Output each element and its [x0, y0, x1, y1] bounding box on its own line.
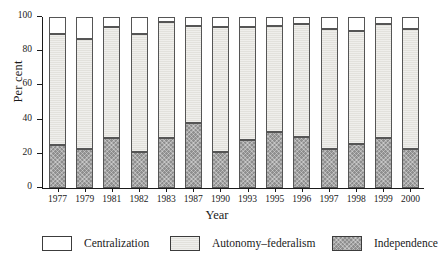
bar-1987[interactable]: [185, 17, 202, 188]
bar-segment-autonomy-federalism-1981[interactable]: [103, 27, 120, 138]
bar-segment-autonomy-federalism-1993[interactable]: [239, 27, 256, 140]
y-tick-label-80: 80: [23, 43, 33, 56]
bar-1990[interactable]: [212, 17, 229, 188]
x-tick-1999: [383, 188, 384, 192]
bar-segment-centralization-1983[interactable]: [158, 17, 175, 22]
bar-segment-centralization-1996[interactable]: [293, 17, 310, 24]
bar-segment-centralization-1982[interactable]: [131, 17, 148, 34]
bar-segment-autonomy-federalism-1998[interactable]: [348, 31, 365, 144]
y-tick-80: 80: [37, 50, 42, 51]
x-tick-1981: [112, 188, 113, 192]
x-tick-2000: [410, 188, 411, 192]
bar-segment-centralization-1979[interactable]: [76, 17, 93, 39]
light-gray-swatch-icon: [170, 236, 200, 251]
bar-1983[interactable]: [158, 17, 175, 188]
legend-item-centralization: Centralization: [42, 232, 149, 254]
bar-segment-centralization-1987[interactable]: [185, 17, 202, 26]
y-tick-label-20: 20: [23, 146, 33, 159]
bar-segment-independence-1995[interactable]: [266, 132, 283, 188]
bar-1997[interactable]: [321, 17, 338, 188]
bar-segment-independence-1997[interactable]: [321, 149, 338, 188]
y-tick-label-60: 60: [23, 77, 33, 90]
x-tick-1998: [356, 188, 357, 192]
x-tick-1979: [85, 188, 86, 192]
legend-label-autonomy-federalism: Autonomy–federalism: [212, 237, 315, 249]
bar-segment-independence-1987[interactable]: [185, 123, 202, 188]
bar-segment-autonomy-federalism-1983[interactable]: [158, 22, 175, 138]
legend-item-autonomy-federalism: Autonomy–federalism: [170, 232, 315, 254]
y-tick-0: 0: [37, 187, 42, 188]
legend-item-independence: Independence: [332, 232, 438, 254]
bar-segment-autonomy-federalism-1987[interactable]: [185, 26, 202, 123]
bar-segment-autonomy-federalism-1979[interactable]: [76, 39, 93, 148]
bar-segment-autonomy-federalism-1977[interactable]: [49, 34, 66, 145]
dark-gray-hatched-swatch-icon: [332, 236, 362, 251]
bar-segment-autonomy-federalism-1999[interactable]: [375, 24, 392, 139]
x-tick-label-2000: 2000: [390, 193, 430, 205]
bar-segment-independence-1981[interactable]: [103, 138, 120, 188]
bar-segment-autonomy-federalism-1990[interactable]: [212, 27, 229, 152]
bar-segment-independence-1996[interactable]: [293, 137, 310, 188]
bar-segment-independence-1983[interactable]: [158, 138, 175, 188]
plot-area: 020406080100: [44, 17, 424, 188]
x-axis-title: Year: [0, 208, 434, 223]
bar-2000[interactable]: [402, 17, 419, 188]
x-tick-1990: [220, 188, 221, 192]
x-tick-1977: [58, 188, 59, 192]
bar-segment-independence-2000[interactable]: [402, 149, 419, 188]
x-axis-line: [42, 188, 424, 189]
bar-segment-independence-1998[interactable]: [348, 144, 365, 188]
x-tick-1996: [302, 188, 303, 192]
bar-segment-centralization-1981[interactable]: [103, 17, 120, 27]
bar-segment-independence-1982[interactable]: [131, 152, 148, 188]
bar-segment-independence-1979[interactable]: [76, 149, 93, 188]
y-tick-20: 20: [37, 153, 42, 154]
bar-1996[interactable]: [293, 17, 310, 188]
x-tick-1997: [329, 188, 330, 192]
legend-label-centralization: Centralization: [84, 237, 149, 249]
x-tick-1982: [139, 188, 140, 192]
white-swatch-icon: [42, 236, 72, 251]
bar-segment-autonomy-federalism-2000[interactable]: [402, 29, 419, 149]
bar-segment-centralization-1995[interactable]: [266, 17, 283, 26]
bar-1995[interactable]: [266, 17, 283, 188]
y-axis-line: [42, 17, 43, 189]
legend-label-independence: Independence: [374, 237, 438, 249]
bar-1977[interactable]: [49, 17, 66, 188]
y-tick-100: 100: [37, 16, 42, 17]
bar-segment-centralization-1990[interactable]: [212, 17, 229, 27]
bar-1998[interactable]: [348, 17, 365, 188]
bar-segment-centralization-1977[interactable]: [49, 17, 66, 34]
y-tick-label-40: 40: [23, 112, 33, 125]
bar-1982[interactable]: [131, 17, 148, 188]
bar-segment-independence-1977[interactable]: [49, 145, 66, 188]
x-tick-1995: [275, 188, 276, 192]
bar-1999[interactable]: [375, 17, 392, 188]
y-tick-40: 40: [37, 119, 42, 120]
y-tick-label-100: 100: [18, 9, 32, 22]
y-tick-60: 60: [37, 84, 42, 85]
x-tick-1993: [248, 188, 249, 192]
bar-segment-centralization-1998[interactable]: [348, 17, 365, 31]
bar-segment-autonomy-federalism-1997[interactable]: [321, 29, 338, 149]
x-tick-1987: [193, 188, 194, 192]
bar-1979[interactable]: [76, 17, 93, 188]
chart-legend: Centralization Autonomy–federalism Indep…: [0, 232, 434, 258]
bar-segment-autonomy-federalism-1996[interactable]: [293, 24, 310, 137]
bar-segment-centralization-1993[interactable]: [239, 17, 256, 27]
bar-segment-independence-1999[interactable]: [375, 138, 392, 188]
bar-segment-independence-1993[interactable]: [239, 140, 256, 188]
bar-segment-centralization-2000[interactable]: [402, 17, 419, 29]
bar-segment-independence-1990[interactable]: [212, 152, 229, 188]
x-tick-1983: [166, 188, 167, 192]
bar-segment-autonomy-federalism-1982[interactable]: [131, 34, 148, 152]
y-tick-label-0: 0: [27, 180, 32, 193]
bar-segment-centralization-1997[interactable]: [321, 17, 338, 29]
bar-1993[interactable]: [239, 17, 256, 188]
bar-1981[interactable]: [103, 17, 120, 188]
bar-segment-autonomy-federalism-1995[interactable]: [266, 26, 283, 132]
bar-segment-centralization-1999[interactable]: [375, 17, 392, 24]
